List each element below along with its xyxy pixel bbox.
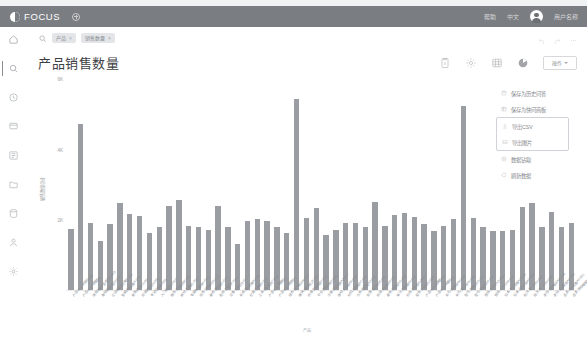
bar-column[interactable] — [164, 79, 174, 290]
search-actions — [538, 37, 577, 44]
bar-column[interactable] — [380, 79, 390, 290]
gear-icon[interactable] — [465, 57, 477, 69]
more-icon[interactable] — [570, 37, 577, 44]
bar-column[interactable] — [282, 79, 292, 290]
bar-column[interactable] — [66, 79, 76, 290]
bar-column[interactable] — [360, 79, 370, 290]
bar-column[interactable] — [174, 79, 184, 290]
bar-column[interactable] — [194, 79, 204, 290]
avatar[interactable] — [530, 10, 543, 23]
bar-column[interactable] — [292, 79, 302, 290]
bar-column[interactable] — [439, 79, 449, 290]
bar-column[interactable] — [478, 79, 488, 290]
chart-actions-menu: 保存为历史问答 保存为快问画板 导出CSV — [496, 85, 569, 183]
bar-column[interactable] — [341, 79, 351, 290]
bar-column[interactable] — [302, 79, 312, 290]
menu-item-export-csv[interactable]: 导出CSV — [497, 118, 568, 134]
bar-column[interactable] — [86, 79, 96, 290]
bar-column[interactable] — [203, 79, 213, 290]
bar[interactable] — [166, 206, 171, 290]
bar-column[interactable] — [272, 79, 282, 290]
menu-item-label: 导出图片 — [512, 139, 532, 146]
home-icon — [8, 34, 19, 45]
sidebar-item-settings[interactable] — [0, 265, 27, 278]
menu-item-drill-down[interactable]: 数据钻取 — [496, 151, 569, 167]
bar[interactable] — [78, 124, 83, 290]
bar-column[interactable] — [252, 79, 262, 290]
bar-column[interactable] — [76, 79, 86, 290]
topbar-link-language[interactable]: 中文 — [507, 12, 519, 21]
bar-column[interactable] — [115, 79, 125, 290]
gear-icon — [8, 266, 19, 277]
sidebar-item-boards[interactable] — [0, 149, 27, 162]
pie-chart-icon[interactable] — [517, 57, 529, 69]
menu-item-export-image[interactable]: 导出图片 — [497, 134, 568, 150]
bar-column[interactable] — [233, 79, 243, 290]
bar-column[interactable] — [390, 79, 400, 290]
bar-column[interactable] — [409, 79, 419, 290]
menu-item-save-board[interactable]: 保存为快问画板 — [496, 101, 569, 117]
brand-logo[interactable]: FOCUS — [10, 11, 60, 22]
bar-column[interactable] — [184, 79, 194, 290]
sidebar-item-users[interactable] — [0, 236, 27, 249]
close-icon[interactable]: × — [108, 33, 111, 43]
plus-circle-icon[interactable] — [72, 13, 80, 21]
board-icon — [501, 106, 507, 112]
menu-item-refresh[interactable]: 刷新数据 — [496, 167, 569, 183]
sidebar-item-folders[interactable] — [0, 178, 27, 191]
search-bar[interactable]: 产品 × 销售数量 × — [38, 33, 115, 43]
table-icon[interactable] — [491, 57, 503, 69]
bar-column[interactable] — [331, 79, 341, 290]
chat-icon — [8, 121, 19, 132]
bar-column[interactable] — [135, 79, 145, 290]
redo-icon[interactable] — [554, 37, 561, 44]
menu-item-save-history[interactable]: 保存为历史问答 — [496, 85, 569, 101]
top-bar-right: 帮助 中文 用户名称 — [484, 10, 578, 23]
undo-icon[interactable] — [538, 37, 545, 44]
bar-column[interactable] — [154, 79, 164, 290]
search-chip-metric[interactable]: 销售数量 × — [81, 33, 115, 43]
close-icon[interactable]: × — [69, 33, 72, 43]
bar-column[interactable] — [95, 79, 105, 290]
search-icon — [8, 63, 19, 74]
bar[interactable] — [176, 200, 181, 290]
bar-column[interactable] — [223, 79, 233, 290]
sidebar-item-answers[interactable] — [0, 120, 27, 133]
info-icon[interactable] — [439, 57, 451, 69]
bar[interactable] — [294, 99, 299, 290]
bar-column[interactable] — [459, 79, 469, 290]
sidebar-item-home[interactable] — [0, 33, 27, 46]
bar-column[interactable] — [419, 79, 429, 290]
sidebar-item-data[interactable] — [0, 207, 27, 220]
chart-actions-button[interactable]: 操作 — [543, 56, 577, 70]
y-axis-tick: 4K — [57, 147, 63, 152]
bar-column[interactable] — [125, 79, 135, 290]
bar-column[interactable] — [370, 79, 380, 290]
sidebar — [0, 27, 27, 343]
menu-item-label: 保存为快问画板 — [511, 106, 546, 113]
bar-column[interactable] — [105, 79, 115, 290]
search-chip-product[interactable]: 产品 × — [52, 33, 76, 43]
bar-column[interactable] — [400, 79, 410, 290]
bar[interactable] — [68, 229, 73, 290]
bar[interactable] — [461, 106, 466, 290]
bar-column[interactable] — [262, 79, 272, 290]
focus-logo-icon — [10, 12, 20, 22]
bar-column[interactable] — [449, 79, 459, 290]
sidebar-item-history[interactable] — [0, 91, 27, 104]
y-axis-tick: 6K — [57, 77, 63, 82]
bar-column[interactable] — [311, 79, 321, 290]
bar-column[interactable] — [213, 79, 223, 290]
app-root: FOCUS 帮助 中文 用户名称 — [0, 0, 587, 343]
refresh-icon — [501, 172, 507, 178]
topbar-link-help[interactable]: 帮助 — [484, 12, 496, 21]
bar-column[interactable] — [321, 79, 331, 290]
bar-column[interactable] — [429, 79, 439, 290]
page-title: 产品销售数量 — [38, 53, 119, 72]
bar-column[interactable] — [468, 79, 478, 290]
bar-column[interactable] — [145, 79, 155, 290]
y-axis-tick: 2K — [57, 218, 63, 223]
bar-column[interactable] — [243, 79, 253, 290]
bar-column[interactable] — [351, 79, 361, 290]
sidebar-item-search[interactable] — [0, 62, 27, 75]
